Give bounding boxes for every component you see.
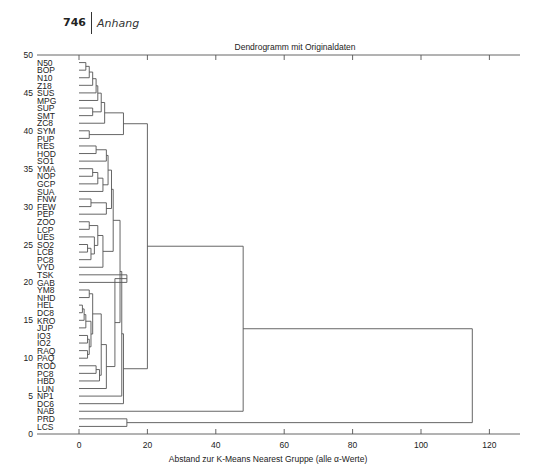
y-axis-ticks: 05101520253035404550 xyxy=(24,50,34,439)
y-tick-label: 40 xyxy=(24,126,34,136)
x-tick-label: 80 xyxy=(348,440,358,450)
x-tick-label: 120 xyxy=(482,440,496,450)
y-tick-label: 50 xyxy=(24,50,34,60)
x-axis-ticks: 020406080100120 xyxy=(77,55,497,450)
x-tick-label: 20 xyxy=(143,440,153,450)
y-tick-label: 25 xyxy=(24,240,34,250)
y-tick-label: 35 xyxy=(24,164,34,174)
y-tick-label: 20 xyxy=(24,277,34,287)
dendrogram-chart: Dendrogramm mit Originaldaten 0510152025… xyxy=(0,0,538,470)
leaf-label: LCS xyxy=(37,422,54,432)
x-tick-label: 60 xyxy=(279,440,289,450)
x-tick-label: 40 xyxy=(211,440,221,450)
y-tick-label: 10 xyxy=(24,353,34,363)
y-tick-label: 0 xyxy=(28,429,33,439)
x-tick-label: 100 xyxy=(414,440,428,450)
x-tick-label: 0 xyxy=(77,440,82,450)
chart-title: Dendrogramm mit Originaldaten xyxy=(235,42,356,52)
axes xyxy=(37,55,520,434)
leaf-labels: N50BOPN10Z18SUSMPGSUPSMTZC8SYMPUPRESHODS… xyxy=(37,58,56,432)
y-tick-label: 15 xyxy=(24,315,34,325)
dendrogram-links xyxy=(79,63,472,427)
x-axis-label: Abstand zur K-Means Nearest Gruppe (alle… xyxy=(169,454,368,464)
y-tick-label: 45 xyxy=(24,88,34,98)
y-tick-label: 30 xyxy=(24,202,34,212)
y-tick-label: 5 xyxy=(28,391,33,401)
